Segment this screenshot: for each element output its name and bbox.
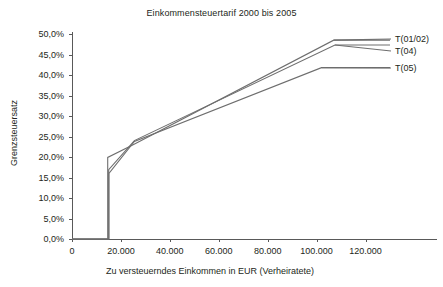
series-lines [72, 40, 390, 239]
income-tax-rate-chart: Einkommensteuertarif 2000 bis 2005 Grenz… [0, 0, 443, 287]
series-line-t04 [72, 45, 390, 239]
legend-connector-1 [335, 45, 391, 51]
plot-canvas [0, 0, 443, 287]
series-line-t0102 [72, 40, 390, 239]
legend-line-swatches [322, 39, 391, 68]
axes [69, 32, 437, 242]
